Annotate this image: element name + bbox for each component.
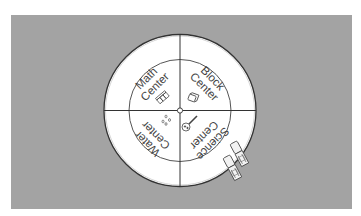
center-pivot <box>177 108 182 113</box>
diagram-canvas: Math Center Block Center <box>0 0 361 216</box>
